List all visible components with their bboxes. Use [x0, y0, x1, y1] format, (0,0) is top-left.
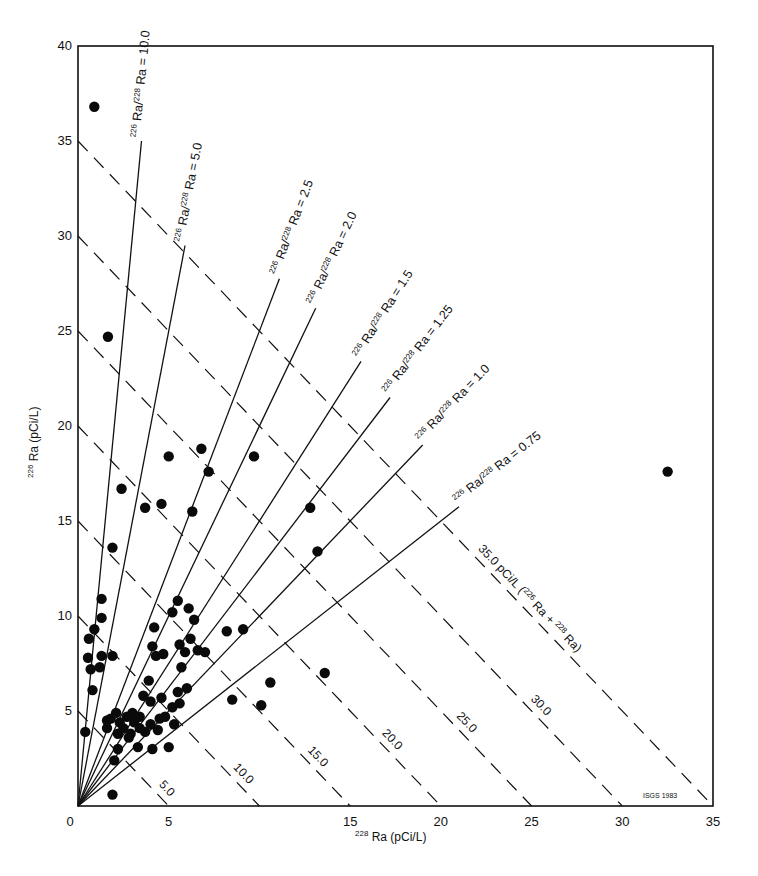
data-point: [183, 603, 193, 613]
data-point: [87, 685, 97, 695]
sum-labels: 5.010.015.020.025.030.035.0 pCi/L (226 R…: [156, 542, 584, 800]
data-point: [144, 675, 154, 685]
x-tick-label: 30: [615, 814, 629, 829]
y-tick-label: 10: [58, 608, 72, 623]
data-point: [156, 693, 166, 703]
data-point: [151, 651, 161, 661]
data-point: [83, 653, 93, 663]
data-point: [173, 596, 183, 606]
data-point: [96, 613, 106, 623]
data-point: [238, 624, 248, 634]
y-tick-label: 25: [58, 323, 72, 338]
data-point: [167, 607, 177, 617]
data-point: [265, 677, 275, 687]
ratio-label: 226 Ra/228 Ra = 0.75: [450, 429, 543, 507]
x-tick-label: 25: [524, 814, 538, 829]
y-tick-label: 5: [65, 703, 72, 718]
data-point: [133, 742, 143, 752]
x-axis-ticks: 051520253035: [66, 814, 720, 829]
data-point: [169, 719, 179, 729]
data-point: [156, 499, 166, 509]
sum-label: 10.0: [231, 760, 257, 787]
x-axis-label: 228 Ra (pCi/L): [355, 829, 426, 844]
data-point: [107, 542, 117, 552]
sum-label: 25.0: [454, 709, 480, 736]
data-point: [147, 744, 157, 754]
data-point: [96, 594, 106, 604]
data-point: [164, 742, 174, 752]
data-point: [145, 719, 155, 729]
data-point: [320, 668, 330, 678]
y-tick-label: 30: [58, 228, 72, 243]
data-point: [138, 691, 148, 701]
x-tick-label: 35: [706, 814, 720, 829]
data-point: [140, 503, 150, 513]
data-point: [187, 506, 197, 516]
data-point: [89, 624, 99, 634]
data-point: [182, 683, 192, 693]
y-tick-label: 15: [58, 513, 72, 528]
data-point: [125, 729, 135, 739]
data-point: [185, 634, 195, 644]
data-point: [86, 664, 96, 674]
data-point: [176, 662, 186, 672]
ratio-label: 226 Ra/228 Ra = 5.0: [172, 141, 205, 243]
data-point: [80, 727, 90, 737]
x-tick-label: 5: [165, 814, 172, 829]
scatter-chart: 051520253035 510152025303540 226 Ra/228 …: [0, 0, 758, 876]
data-point: [89, 102, 99, 112]
sum-label: 35.0 pCi/L (226 Ra + 228 Ra): [476, 542, 585, 655]
data-point: [227, 694, 237, 704]
data-point: [115, 717, 125, 727]
y-tick-label: 35: [58, 133, 72, 148]
sum-label: 20.0: [379, 726, 405, 753]
data-point: [147, 641, 157, 651]
data-point: [256, 700, 266, 710]
data-point: [116, 484, 126, 494]
data-point: [174, 698, 184, 708]
data-point: [180, 647, 190, 657]
x-tick-label: 0: [66, 814, 73, 829]
ratio-label: 226 Ra/228 Ra = 2.5: [267, 178, 316, 277]
data-point: [113, 744, 123, 754]
sum-label: 15.0: [305, 743, 331, 770]
data-point: [203, 466, 213, 476]
data-point: [113, 729, 123, 739]
data-point: [305, 503, 315, 513]
data-point: [102, 715, 112, 725]
data-point: [109, 755, 119, 765]
ratio-line: [78, 141, 142, 806]
data-point: [200, 647, 210, 657]
data-point: [249, 451, 259, 461]
y-axis-ticks: 510152025303540: [58, 38, 72, 718]
data-point: [312, 546, 322, 556]
data-point: [189, 615, 199, 625]
ratio-line: [78, 445, 423, 806]
ratio-label: 226 Ra/228 Ra = 1.25: [379, 302, 456, 396]
ratio-label: 226 Ra/228 Ra = 2.0: [304, 210, 360, 307]
data-point: [662, 466, 672, 476]
data-point: [84, 634, 94, 644]
data-points: [80, 102, 673, 800]
data-point: [154, 713, 164, 723]
y-axis-label: 226 Ra (pCi/L): [26, 407, 41, 478]
y-tick-label: 40: [58, 38, 72, 53]
ratio-label: 226 Ra/228 Ra = 1.0: [413, 362, 493, 445]
data-point: [173, 687, 183, 697]
data-point: [96, 651, 106, 661]
ratio-labels: 226 Ra/228 Ra = 10.0226 Ra/228 Ra = 5.02…: [129, 30, 544, 506]
data-point: [107, 789, 117, 799]
data-point: [196, 444, 206, 454]
ratio-label: 226 Ra/228 Ra = 1.5: [350, 267, 416, 360]
x-tick-label: 15: [343, 814, 357, 829]
data-point: [149, 622, 159, 632]
credit-label: ISGS 1983: [643, 792, 677, 799]
data-point: [107, 651, 117, 661]
data-point: [95, 662, 105, 672]
ratio-lines: [78, 141, 459, 806]
x-tick-label: 20: [434, 814, 448, 829]
data-point: [222, 626, 232, 636]
ratio-line: [78, 398, 390, 807]
y-tick-label: 20: [58, 418, 72, 433]
data-point: [164, 451, 174, 461]
